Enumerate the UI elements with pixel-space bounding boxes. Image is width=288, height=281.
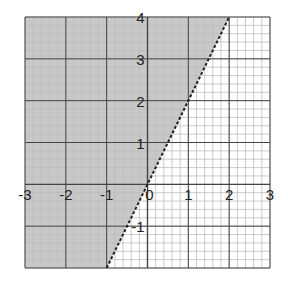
- y-tick-label: -1: [131, 218, 144, 235]
- x-tick-label: 2: [225, 186, 233, 203]
- x-tick-label: -2: [59, 186, 72, 203]
- y-tick-label: 1: [136, 135, 144, 152]
- x-tick-label: 1: [184, 186, 192, 203]
- x-tick-label: -3: [18, 186, 31, 203]
- y-tick-label: 3: [136, 51, 144, 68]
- x-tick-label: -1: [100, 186, 113, 203]
- x-tick-label: 3: [266, 186, 274, 203]
- x-tick-label: 0: [145, 186, 153, 203]
- y-tick-label: 2: [136, 93, 144, 110]
- y-tick-label: 4: [136, 9, 144, 26]
- inequality-graph: -3-2-10123-11234: [0, 0, 288, 281]
